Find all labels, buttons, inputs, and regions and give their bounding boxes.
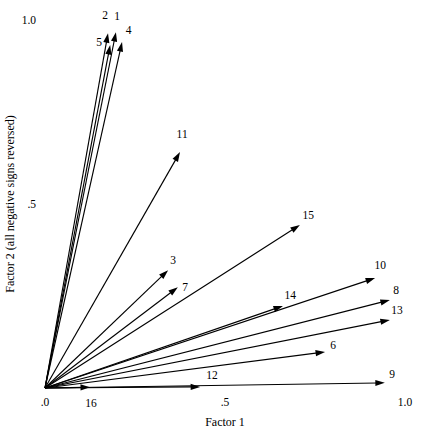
vector-label-7: 7 [182,281,188,293]
vector-label-11: 11 [177,128,188,140]
factor-plot-figure: 12345678910111213141516 .0.51.0.51.0Fact… [0,0,427,436]
vector-label-2: 2 [102,9,108,21]
vector-shaft-2 [45,41,107,388]
vector-shaft-11 [45,159,176,388]
vector-arrowhead-11 [173,152,180,162]
vector-label-8: 8 [393,284,399,296]
x-tick-label-p5: .5 [221,396,230,408]
vector-arrowhead-4 [117,42,123,52]
vector-arrowhead-13 [380,319,390,325]
vector-shaft-4 [45,49,120,388]
vector-label-4: 4 [126,24,132,36]
x-axis-title: Factor 1 [205,415,245,429]
vector-label-10: 10 [374,259,386,271]
vector-arrowhead-1 [111,32,117,42]
vector-arrowhead-16 [80,384,90,390]
x-tick-label-1p0: 1.0 [398,396,413,408]
vector-shaft-15 [45,229,294,388]
vector-arrowhead-12 [191,384,201,390]
y-tick-label-p5: .5 [27,198,36,210]
vector-shaft-14 [45,308,276,388]
vector-shaft-6 [45,353,318,388]
y-tick-label-1p0: 1.0 [22,14,37,26]
vector-label-15: 15 [302,209,314,221]
vector-label-9: 9 [389,368,395,380]
vector-label-14: 14 [284,289,296,301]
vector-arrowhead-10 [365,278,375,284]
x-tick-label-p0: .0 [41,396,50,408]
vector-arrowhead-9 [375,380,385,386]
vector-label-1: 1 [114,10,120,22]
vector-shaft-16 [45,387,83,388]
vector-shaft-5 [45,52,109,388]
vector-label-5: 5 [96,36,102,48]
vector-label-6: 6 [330,339,336,351]
vector-label-13: 13 [391,304,403,316]
vector-arrowhead-2 [103,33,109,43]
vector-label-3: 3 [170,254,176,266]
vectors-group [45,32,390,390]
y-axis-title: Factor 2 (all negative signs reversed) [3,115,17,293]
vector-arrowhead-5 [105,45,111,55]
vector-arrowhead-8 [380,299,390,305]
vector-label-12: 12 [206,369,218,381]
vector-arrowhead-15 [290,225,300,233]
vector-label-16: 16 [85,397,97,409]
axes-group [40,20,411,410]
vector-arrowhead-7 [168,287,177,295]
factor-plot-canvas: 12345678910111213141516 .0.51.0.51.0Fact… [0,0,427,436]
vector-arrowhead-6 [315,350,325,356]
